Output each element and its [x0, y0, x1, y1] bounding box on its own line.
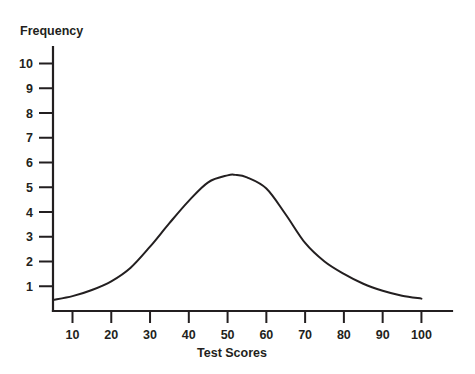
x-tick-label: 80 [337, 328, 351, 342]
y-tick-label: 4 [26, 206, 33, 220]
x-tick-label: 60 [259, 328, 273, 342]
x-axis-ticks [73, 311, 422, 323]
y-axis-tick-labels: 12345678910 [19, 57, 33, 294]
distribution-chart: 12345678910 102030405060708090100 Freque… [0, 0, 475, 374]
x-axis-title: Test Scores [197, 346, 267, 360]
x-tick-label: 30 [143, 328, 157, 342]
x-tick-label: 100 [411, 328, 432, 342]
x-tick-label: 70 [298, 328, 312, 342]
y-tick-label: 7 [26, 131, 33, 145]
y-tick-label: 2 [26, 255, 33, 269]
y-tick-label: 6 [26, 156, 33, 170]
frequency-curve [53, 175, 421, 300]
x-axis-tick-labels: 102030405060708090100 [66, 328, 432, 342]
x-tick-label: 20 [104, 328, 118, 342]
x-tick-label: 90 [376, 328, 390, 342]
y-axis-ticks [39, 64, 53, 287]
y-tick-label: 5 [26, 181, 33, 195]
x-tick-label: 10 [66, 328, 80, 342]
y-axis-title: Frequency [20, 24, 83, 38]
chart-container: 12345678910 102030405060708090100 Freque… [0, 0, 475, 374]
y-tick-label: 8 [26, 107, 33, 121]
x-tick-label: 50 [221, 328, 235, 342]
y-tick-label: 9 [26, 82, 33, 96]
y-tick-label: 3 [26, 230, 33, 244]
y-tick-label: 10 [19, 57, 33, 71]
x-tick-label: 40 [182, 328, 196, 342]
y-tick-label: 1 [26, 280, 33, 294]
